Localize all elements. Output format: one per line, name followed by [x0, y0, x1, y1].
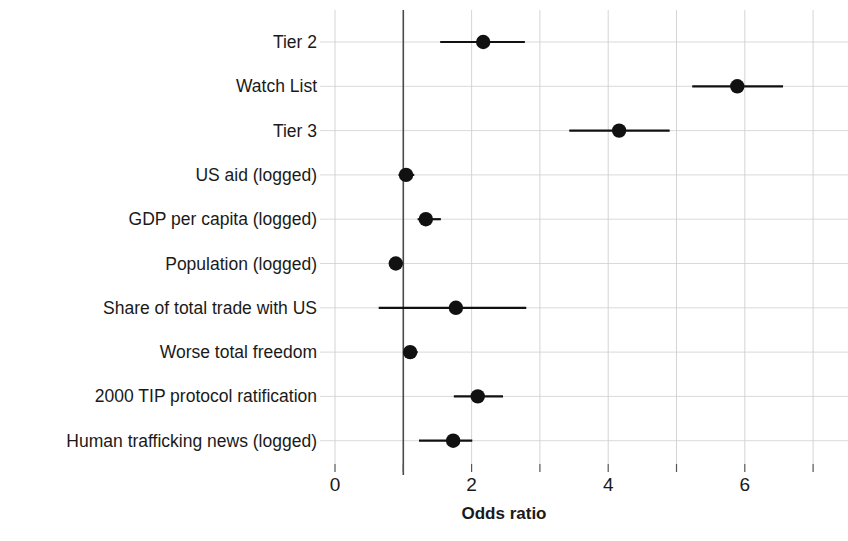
category-label: Population (logged) [165, 254, 317, 274]
category-label: Tier 2 [273, 32, 317, 52]
x-tick-label: 0 [330, 474, 341, 495]
point-estimate-dot [449, 301, 463, 315]
x-tick-label: 4 [603, 474, 614, 495]
category-label: Watch List [236, 76, 317, 96]
point-estimate-dot [612, 123, 626, 137]
x-tick-label: 6 [740, 474, 751, 495]
category-label: US aid (logged) [195, 165, 317, 185]
x-tick-label: 2 [466, 474, 477, 495]
category-label: Share of total trade with US [103, 298, 317, 318]
point-estimate-dot [730, 79, 744, 93]
point-estimate-dot [471, 389, 485, 403]
point-estimate-dot [399, 168, 413, 182]
point-estimate-dot [419, 212, 433, 226]
category-label: GDP per capita (logged) [129, 209, 317, 229]
category-label: Tier 3 [273, 121, 317, 141]
forest-plot-figure: Tier 2Watch ListTier 3US aid (logged)GDP… [0, 0, 848, 541]
x-axis-title: Odds ratio [461, 504, 546, 523]
plot-background [0, 0, 848, 541]
category-label: Human trafficking news (logged) [66, 431, 317, 451]
point-estimate-dot [389, 256, 403, 270]
point-estimate-dot [446, 434, 460, 448]
point-estimate-dot [403, 345, 417, 359]
point-estimate-dot [476, 35, 490, 49]
category-label: 2000 TIP protocol ratification [95, 386, 317, 406]
category-label: Worse total freedom [160, 342, 317, 362]
